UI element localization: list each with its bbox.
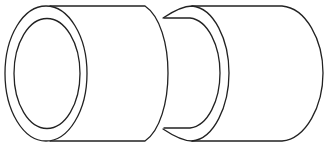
small-cylinder-ring-outer: [163, 6, 229, 141]
coupling-drawing: [0, 0, 330, 147]
small-cylinder-body: [192, 6, 323, 141]
large-cylinder: [5, 6, 168, 141]
small-cylinder-ring-inner: [164, 18, 220, 128]
small-cylinder: [163, 6, 323, 141]
large-cylinder-face-outer: [5, 6, 87, 141]
